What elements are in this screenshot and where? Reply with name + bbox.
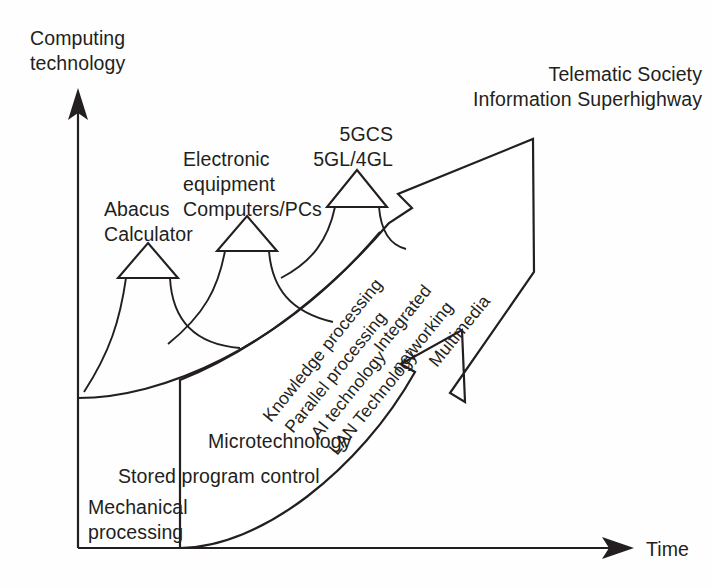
y-axis-label-line1: Computing [30,27,125,49]
headline-line1: Telematic Society [549,63,703,85]
stage-label-electronic-line3: Computers/PCs [183,198,322,220]
era-label-stored-program: Stored program control [118,465,320,487]
stage-label-abacus: Abacus Calculator [104,198,193,245]
y-axis-label-line2: technology [30,52,125,74]
y-axis-label: Computing technology [30,27,125,74]
stage-label-abacus-line1: Abacus [104,198,170,220]
evolution-of-computing-diagram: Computing technology Time Telematic Soci… [0,0,712,588]
stage-label-fifth-line2: 5GL/4GL [313,148,393,170]
diagram-canvas: Computing technology Time Telematic Soci… [0,0,712,588]
era-label-mechanical: Mechanical processing [88,496,188,543]
stage-label-electronic-line1: Electronic [183,148,270,170]
headline-line2: Information Superhighway [473,88,702,110]
stage-label-electronic-line2: equipment [183,173,275,195]
stage-label-abacus-line2: Calculator [104,223,193,245]
stage-label-fifth-line1: 5GCS [339,123,393,145]
era-label-mechanical-line1: Mechanical [88,496,188,518]
y-axis-arrow [68,88,88,548]
stage-label-fifth-generation: 5GCS 5GL/4GL [313,123,393,170]
era-label-stored-program-text: Stored program control [118,465,320,487]
headline-telematic-society: Telematic Society Information Superhighw… [473,63,702,110]
x-axis-label: Time [646,538,689,560]
era-label-mechanical-line2: processing [88,521,183,543]
stage-label-electronic: Electronic equipment Computers/PCs [183,148,322,220]
